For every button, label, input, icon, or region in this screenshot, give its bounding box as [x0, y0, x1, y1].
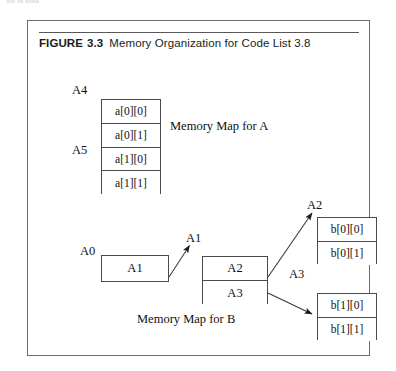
figure-caption: FIGURE3.3Memory Organization for Code Li…: [39, 37, 311, 49]
figure-caption-number: 3.3: [87, 37, 103, 49]
arrow-label-a1: A1: [186, 232, 201, 245]
memory-table-pointers: A2 A3: [202, 256, 268, 304]
memory-cell-b0-1: b[0][1]: [318, 242, 376, 266]
memory-map-a-caption: Memory Map for A: [170, 120, 268, 133]
pointer-box-a1: A1: [101, 255, 169, 282]
memory-cell-ptr-0: A2: [203, 257, 267, 281]
arrow-label-a2: A2: [307, 199, 322, 212]
memory-cell-a-2: a[1][0]: [102, 148, 160, 172]
address-label-a0: A0: [80, 245, 95, 258]
page-bleed-text: are as used.: [6, 0, 41, 5]
address-label-a4: A4: [72, 84, 87, 97]
memory-table-a: a[0][0] a[0][1] a[1][0] a[1][1]: [101, 99, 161, 194]
memory-cell-ptr-1: A3: [203, 281, 267, 305]
figure-caption-keyword: FIGURE: [39, 37, 83, 49]
figure-frame: FIGURE3.3Memory Organization for Code Li…: [27, 20, 370, 356]
arrow-a3: [268, 293, 312, 314]
memory-table-b-row0: b[0][0] b[0][1]: [317, 217, 377, 264]
memory-cell-a-3: a[1][1]: [102, 171, 160, 195]
memory-cell-a-0: a[0][0]: [102, 100, 160, 124]
memory-cell-b1-0: b[1][0]: [318, 294, 376, 318]
memory-cell-a-1: a[0][1]: [102, 124, 160, 148]
arrow-label-a3: A3: [289, 268, 304, 281]
memory-table-b-row1: b[1][0] b[1][1]: [317, 293, 377, 340]
memory-cell-b0-0: b[0][0]: [318, 218, 376, 242]
memory-cell-b1-1: b[1][1]: [318, 318, 376, 342]
address-label-a5: A5: [72, 144, 87, 157]
arrow-a1: [169, 246, 190, 278]
figure-caption-title: Memory Organization for Code List 3.8: [109, 37, 310, 49]
caption-rule: [39, 32, 359, 33]
memory-map-b-caption: Memory Map for B: [137, 313, 235, 326]
